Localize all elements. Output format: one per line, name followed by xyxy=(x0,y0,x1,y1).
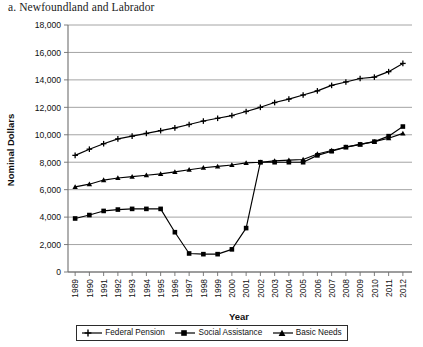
x-tick-label: 2011 xyxy=(384,279,394,297)
grid-lines xyxy=(64,25,412,272)
x-tick-label: 2005 xyxy=(298,279,308,298)
x-tick-label: 1999 xyxy=(213,279,223,298)
triangle-marker-icon xyxy=(400,131,405,136)
x-tick-label: 1996 xyxy=(170,279,180,298)
chart-plot: 02,0004,0006,0008,00010,00012,00014,0001… xyxy=(0,0,423,347)
axis-lines xyxy=(68,25,412,272)
x-tick-label: 2008 xyxy=(341,279,351,298)
x-tick-label: 1997 xyxy=(184,279,194,298)
x-tick-label: 2010 xyxy=(370,279,380,298)
square-marker-icon xyxy=(244,226,249,231)
x-tick-label: 2000 xyxy=(227,279,237,298)
legend-item-basic-needs: Basic Needs xyxy=(271,328,344,338)
y-tick-label: 10,000 xyxy=(35,130,62,140)
square-marker-icon xyxy=(215,252,220,257)
x-tick-label: 2002 xyxy=(256,279,266,298)
x-tick-label: 1995 xyxy=(156,279,166,298)
x-tick-label: 1993 xyxy=(127,279,137,298)
legend-label-basic-needs: Basic Needs xyxy=(296,328,342,338)
square-marker-icon xyxy=(87,213,92,218)
x-tick-label: 1992 xyxy=(113,279,123,298)
x-tick-label: 2003 xyxy=(270,279,280,298)
x-tick-label: 1994 xyxy=(142,279,152,298)
series-federal-pension xyxy=(72,61,405,159)
triangle-marker-icon xyxy=(273,328,293,338)
x-tick-label: 1989 xyxy=(70,279,80,298)
y-axis-tick-labels: 02,0004,0006,0008,00010,00012,00014,0001… xyxy=(35,20,62,277)
plus-marker-icon xyxy=(82,328,102,338)
y-tick-label: 18,000 xyxy=(35,20,62,30)
legend-item-social-assistance: Social Assistance xyxy=(173,328,264,338)
x-axis-tick-labels: 1989199019911992199319941995199619971998… xyxy=(70,279,408,298)
square-marker-icon xyxy=(187,251,192,256)
y-tick-label: 0 xyxy=(56,267,61,277)
y-tick-label: 4,000 xyxy=(39,212,61,222)
legend-label-federal-pension: Federal Pension xyxy=(105,328,165,338)
x-axis-tick-marks xyxy=(75,272,403,276)
y-tick-label: 16,000 xyxy=(35,48,62,58)
chart-legend: Federal Pension Social Assistance Basic … xyxy=(76,325,348,341)
square-marker-icon xyxy=(175,328,195,338)
x-tick-label: 1990 xyxy=(85,279,95,298)
square-marker-icon xyxy=(401,124,406,129)
square-marker-icon xyxy=(173,230,178,235)
square-marker-icon xyxy=(144,207,149,212)
y-tick-label: 6,000 xyxy=(39,185,61,195)
square-marker-icon xyxy=(201,252,206,257)
x-tick-label: 2007 xyxy=(327,279,337,298)
legend-label-social-assistance: Social Assistance xyxy=(198,328,262,338)
y-tick-label: 12,000 xyxy=(35,103,62,113)
square-marker-icon xyxy=(230,247,235,252)
x-tick-label: 2001 xyxy=(241,279,251,298)
square-marker-icon xyxy=(116,207,121,212)
y-tick-label: 2,000 xyxy=(39,240,61,250)
square-marker-icon xyxy=(130,207,135,212)
y-tick-label: 8,000 xyxy=(39,158,61,168)
y-tick-label: 14,000 xyxy=(35,75,62,85)
series-basic-needs xyxy=(72,131,405,189)
y-axis-title: Nominal Dollars xyxy=(5,114,16,186)
chart-figure: a. Newfoundland and Labrador 02,0004,000… xyxy=(0,0,423,347)
square-marker-icon xyxy=(158,207,163,212)
square-marker-icon xyxy=(73,216,78,221)
x-tick-label: 2004 xyxy=(284,279,294,298)
series-social-assistance xyxy=(73,124,405,256)
legend-item-federal-pension: Federal Pension xyxy=(80,328,167,338)
x-tick-label: 2012 xyxy=(398,279,408,298)
x-tick-label: 1991 xyxy=(99,279,109,298)
x-tick-label: 1998 xyxy=(199,279,209,298)
series-line xyxy=(75,133,403,187)
series-line xyxy=(75,63,403,155)
square-marker-icon xyxy=(101,209,106,214)
data-series-layer xyxy=(72,61,405,257)
x-tick-label: 2009 xyxy=(355,279,365,298)
x-tick-label: 2006 xyxy=(313,279,323,298)
x-axis-title: Year xyxy=(229,311,249,322)
